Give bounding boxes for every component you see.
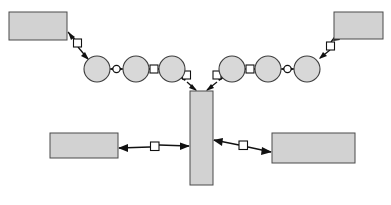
node-circle-5[interactable] <box>255 56 281 82</box>
node-top-left-rect[interactable] <box>9 12 67 40</box>
link-marker-circle[interactable] <box>284 65 291 72</box>
node-bottom-right-rect[interactable] <box>272 133 355 163</box>
link-circle4-circle5[interactable] <box>245 65 256 73</box>
link-marker-square[interactable] <box>327 42 335 50</box>
arrow-head <box>81 52 89 60</box>
link-marker-square[interactable] <box>74 39 82 47</box>
link-centerbar-bottomright[interactable] <box>213 138 272 155</box>
node-top-right-rect[interactable] <box>334 12 383 39</box>
arrow-head <box>118 144 128 152</box>
node-circle-6[interactable] <box>294 56 320 82</box>
arrow-head <box>180 143 190 151</box>
link-marker-square[interactable] <box>151 142 160 151</box>
diagram-canvas <box>0 0 391 205</box>
link-marker-circle[interactable] <box>113 65 120 72</box>
rect-node-layer <box>9 12 383 185</box>
arrow-head <box>213 138 223 146</box>
diagram-svg <box>0 0 391 205</box>
node-center-bar[interactable] <box>190 91 213 185</box>
link-marker-square[interactable] <box>239 141 248 150</box>
link-bottomleft-centerbar[interactable] <box>118 142 190 152</box>
link-marker-square[interactable] <box>150 65 158 73</box>
link-circle1-circle2[interactable] <box>110 65 123 72</box>
node-bottom-left-rect[interactable] <box>50 133 118 158</box>
node-circle-1[interactable] <box>84 56 110 82</box>
link-circle2-circle3[interactable] <box>149 65 160 73</box>
link-circle5-circle6[interactable] <box>281 65 294 72</box>
arrow-head <box>261 147 272 155</box>
link-topleft-circle1[interactable] <box>68 32 89 60</box>
node-circle-4[interactable] <box>219 56 245 82</box>
link-marker-square[interactable] <box>246 65 254 73</box>
node-circle-3[interactable] <box>159 56 185 82</box>
node-circle-2[interactable] <box>123 56 149 82</box>
